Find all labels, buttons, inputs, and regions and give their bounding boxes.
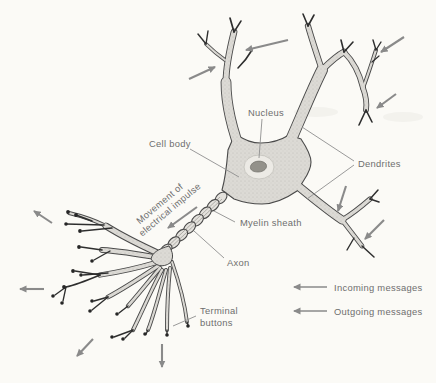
outgoing-arrow [77, 339, 93, 356]
incoming-arrow [246, 40, 288, 50]
outgoing-arrow [34, 211, 52, 223]
figure: Nucleus Cell body Dendrites Myelin sheat… [0, 0, 436, 383]
legend: Incoming messages Outgoing messages [294, 282, 422, 317]
dendrite-outlines [69, 26, 376, 330]
leader-axon [194, 231, 224, 258]
incoming-arrow [377, 94, 396, 108]
label-terminal-buttons-line2: buttons [200, 317, 233, 328]
incoming-arrow [365, 220, 384, 239]
legend-outgoing-label: Outgoing messages [334, 306, 422, 317]
label-nucleus: Nucleus [248, 107, 284, 118]
incoming-arrow [338, 186, 346, 211]
leader-dendrites-lower [307, 165, 354, 199]
leader-myelin-sheath [214, 211, 235, 222]
nucleolus-shape [250, 161, 266, 172]
paper-smudges [294, 107, 423, 122]
dendrites [69, 26, 376, 330]
label-terminal-buttons-line1: Terminal [200, 305, 238, 316]
label-cell-body: Cell body [149, 138, 191, 149]
incoming-arrow [381, 37, 404, 52]
label-dendrites: Dendrites [358, 158, 401, 169]
label-myelin-sheath: Myelin sheath [240, 217, 302, 228]
neuron-diagram: Nucleus Cell body Dendrites Myelin sheat… [0, 0, 436, 383]
incoming-arrow [189, 67, 215, 79]
legend-incoming-label: Incoming messages [334, 282, 422, 293]
label-axon: Axon [227, 257, 250, 268]
